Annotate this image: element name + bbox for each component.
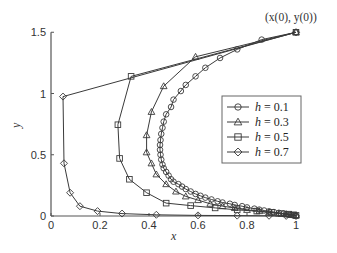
legend: h = 0.1h = 0.3h = 0.5h = 0.7 <box>222 96 301 163</box>
y-tick-label: 1 <box>40 88 46 100</box>
y-tick-label: 1.5 <box>31 26 46 38</box>
x-tick-label: 0 <box>48 219 54 231</box>
initial-point-annotation: (x(0), y(0)) <box>265 11 317 24</box>
x-tick-label: 0.2 <box>92 219 107 231</box>
y-tick-label: 0 <box>40 210 46 222</box>
x-tick-label: 1 <box>293 219 299 231</box>
y-tick-label: 0.5 <box>31 149 46 161</box>
legend-label: h = 0.7 <box>255 145 289 159</box>
x-tick-label: 0.4 <box>141 219 156 231</box>
legend-label: h = 0.1 <box>255 100 289 114</box>
legend-label: h = 0.3 <box>255 115 289 129</box>
legend-label: h = 0.5 <box>255 130 289 144</box>
x-tick-label: 0.6 <box>190 219 205 231</box>
y-axis-label: y <box>9 122 23 129</box>
chart: 00.20.40.60.8100.511.5 (x(0), y(0)) x y … <box>0 0 337 253</box>
x-tick-label: 0.8 <box>239 219 254 231</box>
x-axis-label: x <box>170 229 177 243</box>
